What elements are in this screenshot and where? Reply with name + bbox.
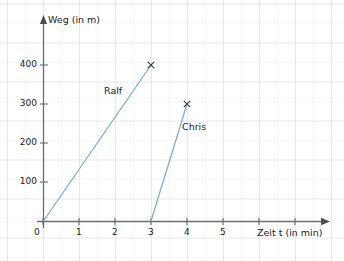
series-line-ralf (44, 62, 155, 221)
x-tick-label-5: 5 (220, 228, 226, 237)
series-line-chris (151, 101, 190, 221)
y-axis-title: Weg (in m) (48, 15, 100, 25)
marker-ralf-endpoint (148, 62, 154, 68)
x-axis-title: Zeit t (in min) (257, 228, 323, 238)
y-tick-label-200: 200 (12, 138, 37, 147)
origin-tick-label-0: 0 (34, 228, 40, 237)
x-tick-label-4: 4 (184, 228, 190, 237)
chart-figure: Weg (in m) Zeit t (in min) 400 300 200 1… (0, 0, 344, 261)
series-label-chris: Chris (182, 122, 206, 132)
x-tick-label-1: 1 (76, 228, 82, 237)
series-label-ralf: Ralf (104, 86, 122, 96)
y-tick-label-100: 100 (12, 177, 37, 186)
plot-area (0, 0, 344, 261)
y-tick-label-300: 300 (12, 99, 37, 108)
marker-chris-endpoint (184, 101, 190, 107)
x-tick-label-3: 3 (148, 228, 154, 237)
x-axis (37, 218, 330, 225)
y-tick-label-400: 400 (12, 60, 37, 69)
x-tick-label-2: 2 (112, 228, 118, 237)
y-axis (40, 15, 48, 228)
